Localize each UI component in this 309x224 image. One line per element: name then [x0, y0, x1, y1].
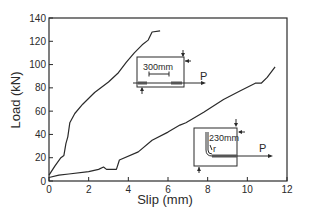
x-tick-label: 10: [242, 184, 254, 195]
y-tick-label: 80: [35, 82, 47, 93]
load-slip-chart: 024681012020406080100120140 Slip (mm) Lo…: [0, 0, 309, 224]
x-axis-title: Slip (mm): [137, 192, 193, 207]
x-tick-label: 0: [46, 184, 52, 195]
y-tick-label: 0: [40, 176, 46, 187]
y-tick-label: 120: [29, 36, 46, 47]
inset-straight-bar: [133, 50, 206, 94]
x-tick-label: 8: [205, 184, 211, 195]
bonded-segment-left: [138, 82, 147, 85]
plot-area-border: [49, 18, 287, 181]
radius-pointer: [210, 145, 212, 150]
x-tick-label: 4: [126, 184, 132, 195]
bonded-segment-right: [171, 82, 182, 85]
plot-frame: [49, 18, 287, 181]
inset-hooked-radius-label: r: [213, 144, 216, 154]
force-arrow-icon: [268, 154, 273, 158]
inset-straight-dimension: 300mm: [143, 62, 173, 72]
axis-ticks: 024681012020406080100120140: [29, 13, 293, 196]
arrow-left-icon: [185, 59, 189, 63]
y-tick-label: 100: [29, 59, 46, 70]
inset-hooked-force-label: P: [259, 142, 266, 154]
data-series: [49, 31, 275, 178]
arrow-down-icon: [234, 123, 238, 127]
y-axis-title: Load (kN): [8, 71, 23, 128]
y-tick-label: 40: [35, 129, 47, 140]
y-tick-label: 60: [35, 106, 47, 117]
bonded-segment: [212, 155, 237, 158]
arrow-up-icon: [197, 167, 201, 171]
arrow-up-icon: [140, 87, 144, 91]
y-tick-label: 140: [29, 13, 46, 24]
y-tick-label: 20: [35, 152, 47, 163]
x-tick-label: 12: [281, 184, 293, 195]
x-tick-label: 2: [86, 184, 92, 195]
inset-straight-force-label: P: [200, 70, 207, 82]
series-straight-bar-line: [49, 31, 160, 175]
arrow-down-icon: [181, 53, 185, 57]
inset-hooked-dimension: 230mm: [209, 133, 239, 143]
